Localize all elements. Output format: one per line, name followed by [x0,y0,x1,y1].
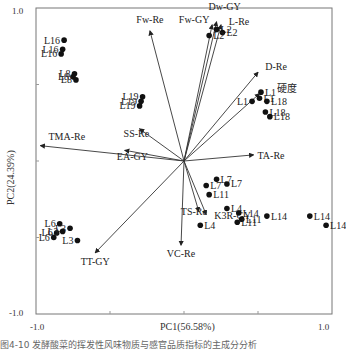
loading-label: 硬度 [277,82,297,94]
score-label: L16 [41,48,57,59]
loading-label: TA-Re [258,150,286,161]
score-label: L11 [213,189,229,200]
score-label: L3 [48,226,59,237]
loading-vector: TA-Re [184,150,285,161]
score-label: L14 [271,211,287,222]
score-point: L3 [62,235,80,246]
loading-label: EA-GY [117,151,148,162]
y-tick-top: 1.0 [12,6,24,16]
figure-caption: 图4-10 发酵酸菜的挥发性风味物质与感官品质指标的主成分分析 [0,338,346,350]
score-label: L2 [213,30,224,41]
loading-label: D-Re [265,61,287,72]
score-label: L18 [274,111,290,122]
score-label: L2 [226,27,237,38]
score-label: L19 [119,100,135,111]
loading-label: L-Re [229,16,250,27]
loading-vectors: Fw-ReDw-GYFw-GYL-ReD-Re硬度TA-ReTMA-ReEA-G… [40,1,297,267]
loading-label: Fw-GY [179,14,210,25]
score-label: L1 [237,96,248,107]
x-tick-right: 1.0 [318,322,330,332]
score-label: L8 [61,74,72,85]
x-tick-left: -1.0 [30,322,45,332]
loading-label: Dw-GY [208,1,240,12]
y-axis-label: PC2(24.39%) [5,150,17,205]
score-label: L7 [231,178,242,189]
loading-label: TMA-Re [48,131,85,142]
score-point: L1 [237,96,255,107]
score-label: L11 [241,217,257,228]
score-label: L14 [330,220,346,231]
loading-vector: EA-GY [117,150,184,162]
score-point: L14 [307,211,330,222]
y-tick-bottom: -1.0 [9,308,24,318]
pca-biplot: 1.0 -1.0 -1.0 1.0 PC1(56.58%) PC2(24.39%… [0,0,346,350]
score-label: L18 [271,96,287,107]
loading-label: Fw-Re [136,14,164,25]
loading-label: VC-Re [167,248,196,259]
score-label: L4 [204,220,215,231]
score-label: L14 [314,211,330,222]
loading-label: TT-GY [81,256,110,267]
loading-vector: Fw-Re [136,14,184,161]
x-axis-label: PC1(56.58%) [160,321,215,333]
score-point: L4 [197,220,215,231]
score-point: L14 [264,211,287,222]
score-label: L3 [62,235,73,246]
loading-label: SS-Re [124,128,150,139]
